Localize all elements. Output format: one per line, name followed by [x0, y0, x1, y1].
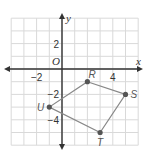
x-tick-label: 4 [110, 72, 116, 83]
y-tick-label: −4 [48, 115, 60, 126]
x-tick-label: −2 [31, 72, 43, 83]
vertex-label-u: U [37, 102, 45, 113]
vertex-point-t [98, 130, 103, 135]
x-axis-label: x [135, 55, 141, 67]
vertex-label-s: S [131, 89, 138, 100]
y-tick-label: 2 [53, 39, 59, 50]
vertex-point-r [85, 79, 90, 84]
origin-label: O [52, 55, 60, 67]
y-tick-label: −2 [48, 89, 60, 100]
vertex-label-t: T [97, 137, 104, 148]
x-axis-left-arrow-icon [4, 66, 10, 72]
y-axis-up-arrow-icon [59, 13, 65, 19]
vertex-point-u [47, 105, 52, 110]
vertex-point-s [123, 92, 128, 97]
y-axis-label: y [65, 12, 71, 24]
coordinate-plane: xyO−242−2−4 RSTU [0, 0, 147, 155]
vertex-label-r: R [88, 69, 95, 80]
y-axis-down-arrow-icon [59, 144, 65, 150]
